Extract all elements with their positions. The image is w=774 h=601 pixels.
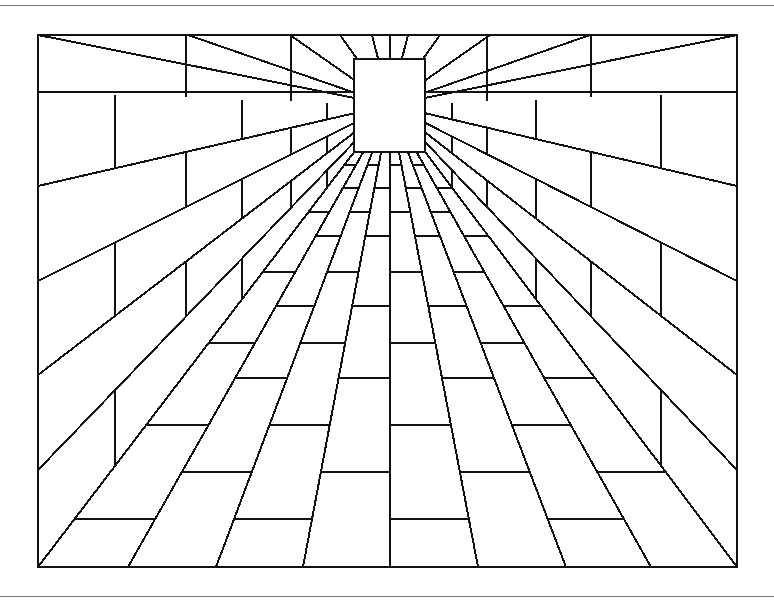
floor-line <box>399 152 478 567</box>
wall-receding-line <box>425 123 737 281</box>
wall-receding-line <box>425 132 737 375</box>
wall-receding-line <box>425 152 737 567</box>
wall-receding-line <box>38 113 354 186</box>
wall-receding-line <box>38 123 354 281</box>
floor-line <box>216 152 372 567</box>
perspective-drawing <box>0 0 774 601</box>
ceiling-line <box>340 35 357 59</box>
ceiling-line <box>423 35 440 59</box>
ceiling-line <box>402 35 408 59</box>
outer-frame <box>38 35 737 567</box>
floor-line <box>128 152 363 567</box>
floor-line <box>417 152 651 567</box>
corner-line <box>38 35 354 98</box>
floor-line <box>408 152 566 567</box>
wall-receding-line <box>425 113 737 186</box>
wall-receding-line <box>425 142 737 470</box>
wall-receding-line <box>38 152 354 567</box>
corner-line <box>425 35 737 98</box>
floor-line <box>303 152 381 567</box>
ceiling-line <box>372 35 378 59</box>
ceiling-line <box>188 35 354 93</box>
bottom-rule <box>0 596 774 597</box>
back-wall <box>354 59 425 152</box>
